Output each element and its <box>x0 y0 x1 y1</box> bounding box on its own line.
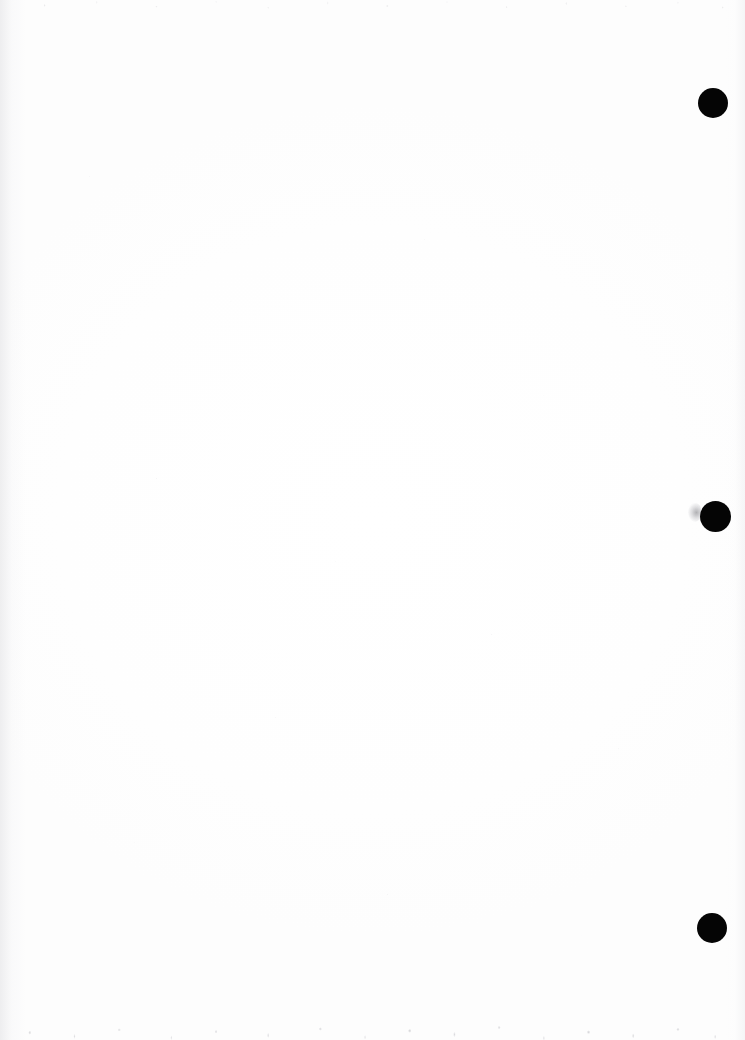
registration-dot-bottom <box>697 913 727 943</box>
registration-dot-top <box>698 88 728 118</box>
paper-background <box>0 0 745 1040</box>
scanned-page <box>0 0 745 1040</box>
registration-dot-middle <box>700 501 731 532</box>
